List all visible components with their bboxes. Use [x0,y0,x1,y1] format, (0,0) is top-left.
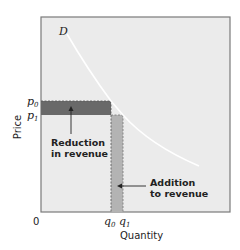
demand-curve-label: D [58,25,68,38]
q0-label: q0 [104,215,116,229]
y-axis-title: Price [12,115,23,139]
q1-label: q1 [119,215,131,229]
reduction-label-line2: in revenue [51,148,108,159]
origin-label: 0 [33,216,39,227]
addition-to-revenue-area [111,115,123,212]
addition-label-line2: to revenue [150,188,208,199]
x-axis-title: Quantity [120,230,163,241]
reduction-in-revenue-area [41,101,111,115]
p1-label: p1 [27,109,39,123]
revenue-diagram: D Price p0 p1 0 q0 q1 Quantity Reduction… [0,0,240,250]
reduction-label-line1: Reduction [51,137,105,148]
p0-label: p0 [27,95,39,109]
addition-label-line1: Addition [150,177,196,188]
